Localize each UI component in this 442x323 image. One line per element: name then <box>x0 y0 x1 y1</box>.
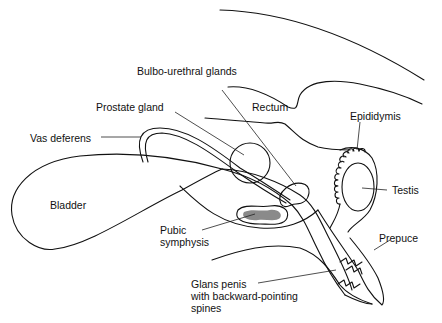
prepuce-outline <box>318 210 384 305</box>
epididymis-duct <box>330 204 340 228</box>
anatomy-diagram: Bulbo-urethral glands Prostate gland Rec… <box>0 0 442 323</box>
pubic-leader-line <box>202 214 255 230</box>
label-bladder: Bladder <box>50 199 86 211</box>
vas-deferens-outer <box>139 128 290 200</box>
label-testis: Testis <box>392 184 419 196</box>
pubic-bone-fill <box>243 210 281 220</box>
label-glans-penis-line1: Glans penis <box>191 278 246 290</box>
diagram-drawing <box>0 0 442 323</box>
label-glans-penis-line3: spines <box>191 302 221 314</box>
label-prepuce: Prepuce <box>379 232 418 244</box>
prostate-gland-shape <box>230 143 270 183</box>
label-prostate-gland: Prostate gland <box>96 101 164 113</box>
label-vas-deferens: Vas deferens <box>30 132 91 144</box>
label-glans-penis-line2: with backward-pointing <box>191 290 298 302</box>
glans-leader-line <box>258 270 336 283</box>
pelvic-floor-curve <box>180 186 318 228</box>
bulbo-urethral-gland-shape <box>280 183 309 207</box>
rectum-lower-wall <box>205 118 350 150</box>
body-outline <box>220 10 424 80</box>
epididymis-leader-line <box>357 122 360 150</box>
scrotum-outline <box>340 148 377 232</box>
testis-shape <box>342 163 374 211</box>
label-epididymis: Epididymis <box>350 110 401 122</box>
label-bulbo-urethral-glands: Bulbo-urethral glands <box>137 65 237 77</box>
vas-deferens-inner <box>145 133 286 203</box>
label-pubic-symphysis-line2: symphysis <box>160 236 209 248</box>
epididymis-lobes <box>334 148 365 204</box>
label-pubic-symphysis-line1: Pubic <box>160 224 186 236</box>
label-rectum: Rectum <box>252 101 288 113</box>
